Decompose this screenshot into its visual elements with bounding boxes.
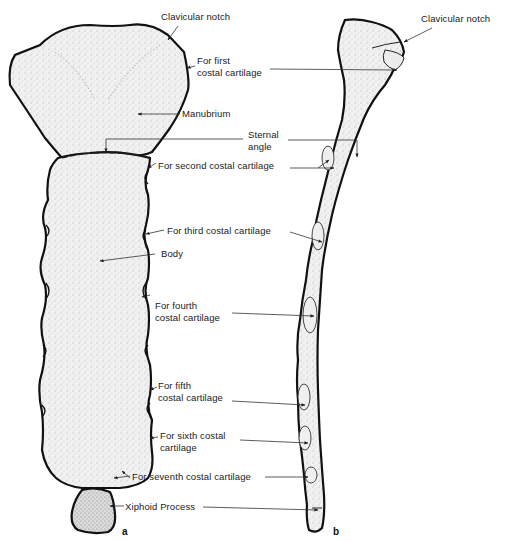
lateral-sternum-shape bbox=[297, 19, 404, 531]
label-third-costal-cartilage: For third costal cartilage bbox=[167, 225, 271, 237]
sternal-body-shape bbox=[39, 152, 152, 488]
label-clavicular-notch-a: Clavicular notch bbox=[161, 11, 230, 23]
label-xiphoid-process: Xiphoid Process bbox=[125, 501, 195, 513]
manubrium-shape bbox=[10, 24, 189, 158]
label-body: Body bbox=[161, 248, 183, 260]
label-clavicular-notch-b: Clavicular notch bbox=[421, 13, 490, 25]
label-sternal-angle: Sternal angle bbox=[248, 129, 279, 153]
label-first-costal-cartilage: For first costal cartilage bbox=[197, 55, 262, 79]
label-second-costal-cartilage: For second costal cartilage bbox=[158, 160, 274, 172]
sternum-diagram bbox=[0, 0, 507, 541]
label-fifth-costal-cartilage: For fifth costal cartilage bbox=[158, 380, 223, 404]
panel-letter-b: b bbox=[333, 526, 339, 537]
label-fourth-costal-cartilage: For fourth costal cartilage bbox=[155, 300, 220, 324]
label-sixth-costal-cartilage: For sixth costal cartilage bbox=[160, 430, 225, 454]
label-seventh-costal-cartilage: For seventh costal cartilage bbox=[132, 471, 251, 483]
panel-letter-a: a bbox=[122, 526, 128, 537]
xiphoid-shape bbox=[72, 488, 116, 533]
label-manubrium: Manubrium bbox=[182, 108, 230, 120]
sternum-anterior bbox=[10, 24, 189, 533]
sternum-lateral bbox=[297, 19, 404, 531]
